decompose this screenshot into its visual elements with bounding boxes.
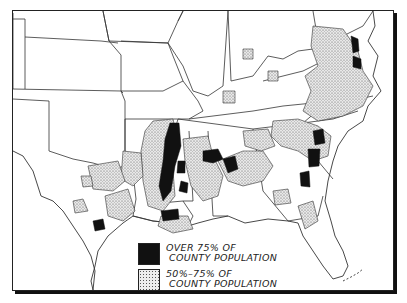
legend-item-50-75: 50%–75% OF COUNTY POPULATION xyxy=(138,269,338,291)
map-legend: OVER 75% OF COUNTY POPULATION 50%–75% OF… xyxy=(138,243,338,291)
map-frame: OVER 75% OF COUNTY POPULATION 50%–75% OF… xyxy=(12,10,394,291)
legend-label-line2: COUNTY POPULATION xyxy=(166,279,277,289)
legend-item-over-75: OVER 75% OF COUNTY POPULATION xyxy=(138,243,338,267)
black-swatch-icon xyxy=(138,243,160,265)
legend-label-line2: COUNTY POPULATION xyxy=(166,253,277,263)
stippled-regions-50-75 xyxy=(73,26,373,233)
stipple-swatch-icon xyxy=(138,269,160,291)
